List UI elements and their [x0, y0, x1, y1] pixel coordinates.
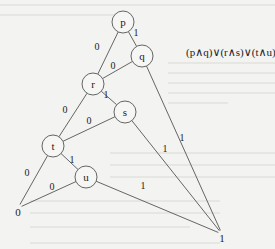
edges-group	[20, 32, 220, 233]
node-p: p	[112, 11, 134, 33]
edge-label-s-one: 1	[163, 143, 168, 154]
bdd-diagram: 100110011001 pqrstu 01 (p∧q)∨(r∧s)∨(t∧u)	[0, 0, 275, 249]
node-u: u	[75, 166, 97, 188]
node-s: s	[114, 101, 136, 123]
node-label-s: s	[123, 106, 127, 118]
edge-label-s-t: 0	[87, 115, 92, 126]
edge-t-zero	[20, 156, 48, 205]
edge-label-p-r: 0	[95, 41, 100, 52]
edge-label-q-r: 0	[111, 60, 116, 71]
terminal-zero: 0	[15, 206, 21, 218]
edge-labels-group: 100110011001	[25, 27, 185, 192]
edge-r-t	[59, 93, 87, 137]
edge-label-t-zero: 0	[25, 167, 30, 178]
node-label-p: p	[120, 16, 126, 28]
node-r: r	[82, 73, 104, 95]
edge-label-r-s: 1	[104, 89, 109, 100]
terminals-group: 01	[15, 206, 225, 244]
formula-label: (p∧q)∨(r∧s)∨(t∧u)	[186, 46, 275, 59]
edge-q-r	[103, 61, 133, 78]
node-label-q: q	[139, 50, 145, 62]
edge-label-t-u: 1	[70, 154, 75, 165]
node-t: t	[42, 135, 64, 157]
node-label-r: r	[91, 78, 95, 90]
node-label-u: u	[83, 171, 89, 183]
node-q: q	[131, 45, 153, 67]
edge-q-one	[147, 66, 221, 230]
edge-label-u-zero: 0	[50, 181, 55, 192]
edge-label-r-t: 0	[63, 104, 68, 115]
edge-label-u-one: 1	[141, 180, 146, 191]
node-label-t: t	[51, 140, 54, 152]
terminal-one: 1	[219, 232, 225, 244]
edge-label-q-one: 1	[180, 132, 185, 143]
edge-label-p-q: 1	[134, 27, 139, 38]
